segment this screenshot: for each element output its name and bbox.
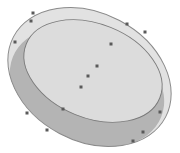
point-marker <box>110 43 113 46</box>
point-marker <box>46 129 49 132</box>
point-marker <box>96 65 99 68</box>
cylinder-diagram <box>0 0 180 153</box>
point-marker <box>144 31 147 34</box>
point-marker <box>26 112 29 115</box>
point-marker <box>132 140 135 143</box>
point-marker <box>14 41 17 44</box>
point-marker <box>32 12 35 15</box>
point-marker <box>159 111 162 114</box>
diagram-canvas <box>0 0 180 153</box>
point-marker <box>30 20 33 23</box>
point-marker <box>142 131 145 134</box>
point-marker <box>62 108 65 111</box>
point-marker <box>80 86 83 89</box>
point-marker <box>87 75 90 78</box>
point-marker <box>126 23 129 26</box>
